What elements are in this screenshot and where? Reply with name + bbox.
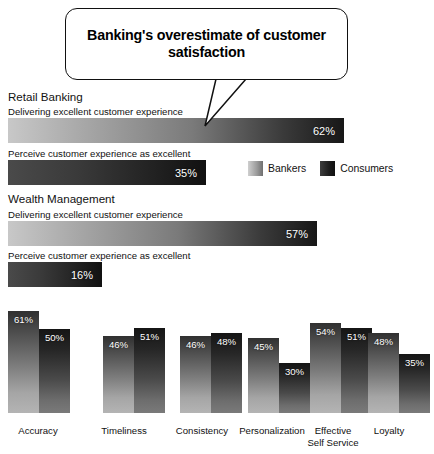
hbar-value-retail-delivering: 62% — [313, 125, 335, 137]
bar-bankers-accuracy: 61% — [8, 311, 39, 413]
bar-consumers-accuracy: 50% — [39, 329, 70, 413]
bar-group: 46%51% — [103, 296, 165, 413]
bar-value-label: 51% — [347, 331, 366, 413]
bar-consumers-timeliness: 51% — [134, 328, 165, 413]
bar-value-label: 48% — [374, 336, 393, 413]
legend-label-consumers: Consumers — [340, 163, 393, 174]
bar-bankers-consistency: 46% — [180, 336, 211, 413]
category-label-accuracy: Accuracy — [0, 425, 86, 437]
legend-swatch-consumers — [320, 161, 335, 176]
row-label-wealth-delivering: Delivering excellent customer experience — [8, 209, 183, 220]
bar-bankers-personalization: 45% — [248, 338, 279, 413]
legend: Bankers Consumers — [248, 161, 393, 176]
bar-value-label: 48% — [217, 336, 236, 413]
bar-value-label: 61% — [14, 314, 33, 413]
row-label-retail-delivering: Delivering excellent customer experience — [8, 106, 183, 117]
hbar-value-wealth-delivering: 57% — [286, 228, 308, 240]
bar-value-label: 35% — [405, 357, 424, 413]
category-label-loyalty: Loyalty — [341, 425, 434, 437]
hbar-value-wealth-perceive: 16% — [71, 269, 93, 281]
bar-value-label: 46% — [186, 339, 205, 413]
bar-consumers-personalization: 30% — [279, 363, 310, 413]
bar-group: 54%51% — [310, 296, 372, 413]
legend-item-bankers: Bankers — [248, 161, 306, 176]
legend-swatch-bankers — [248, 161, 263, 176]
bar-bankers-timeliness: 46% — [103, 336, 134, 413]
legend-label-bankers: Bankers — [268, 163, 306, 174]
bar-group: 45%30% — [248, 296, 310, 413]
bar-bankers-effective-self-service: 54% — [310, 323, 341, 413]
bar-consumers-loyalty: 35% — [399, 354, 430, 413]
bar-group: 48%35% — [368, 296, 430, 413]
hbar-wealth-delivering: 57% — [8, 221, 317, 246]
section-heading-wealth-management: Wealth Management — [8, 192, 115, 205]
bar-value-label: 54% — [316, 326, 335, 413]
section-heading-retail-banking: Retail Banking — [8, 90, 83, 103]
bar-value-label: 50% — [45, 332, 64, 413]
bar-consumers-consistency: 48% — [211, 333, 242, 413]
bar-value-label: 46% — [109, 339, 128, 413]
hbar-wealth-perceive: 16% — [8, 262, 102, 287]
bar-group: 61%50% — [8, 296, 70, 413]
legend-item-consumers: Consumers — [320, 161, 393, 176]
bar-bankers-loyalty: 48% — [368, 333, 399, 413]
bar-group: 46%48% — [180, 296, 242, 413]
bar-value-label: 51% — [140, 331, 159, 413]
bar-value-label: 45% — [254, 341, 273, 413]
callout-bubble: Banking's overestimate of customer satis… — [65, 8, 348, 80]
chart-title: Banking's overestimate of customer satis… — [66, 27, 347, 62]
row-label-retail-perceive: Perceive customer experience as excellen… — [8, 148, 190, 159]
hbar-value-retail-perceive: 35% — [175, 167, 197, 179]
bar-value-label: 30% — [285, 366, 304, 413]
hbar-retail-delivering: 62% — [8, 118, 344, 143]
hbar-retail-perceive: 35% — [8, 160, 206, 185]
grouped-bar-chart: 61%50%Accuracy46%51%Timeliness46%48%Cons… — [0, 296, 405, 454]
row-label-wealth-perceive: Perceive customer experience as excellen… — [8, 250, 190, 261]
